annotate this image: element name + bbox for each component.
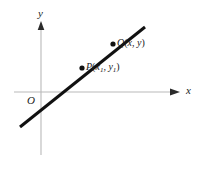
coordinate-plot-svg — [0, 0, 206, 176]
point-p-label: P(x1, y1) — [86, 62, 120, 72]
origin-label: O — [27, 95, 35, 106]
point-p-dot — [79, 65, 84, 70]
point-q-dot — [110, 41, 115, 46]
x-axis-group — [14, 89, 180, 96]
y-axis-group — [38, 21, 45, 155]
point-q-label: Q(x, y) — [117, 38, 145, 48]
point-q-close-paren: ) — [141, 37, 144, 48]
x-axis-label: x — [186, 85, 191, 96]
point-p-y-subscript: 1 — [113, 66, 117, 74]
y-axis-label: y — [38, 8, 43, 19]
figure-canvas: y x O Q(x, y) P(x1, y1) — [0, 0, 206, 176]
point-p-close-paren: ) — [116, 61, 119, 72]
point-p-x-subscript: 1 — [100, 66, 104, 74]
arrow-up-icon — [38, 21, 45, 30]
arrow-right-icon — [170, 89, 180, 96]
